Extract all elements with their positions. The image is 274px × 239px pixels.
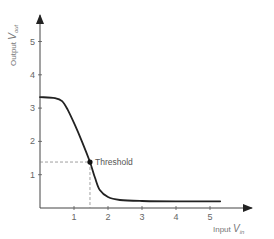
x-axis-label: Input Vin <box>213 223 245 235</box>
x-tick-label: 5 <box>207 212 212 222</box>
y-axis-label: Output Vout <box>7 24 19 66</box>
y-tick-label: 2 <box>30 136 35 146</box>
axes <box>40 15 252 208</box>
threshold-point <box>87 159 92 164</box>
transfer-curve-line <box>40 97 220 201</box>
transfer-curve-chart: 1234512345 Threshold Input VinOutput Vou… <box>0 0 274 239</box>
y-tick-label: 5 <box>30 37 35 47</box>
y-tick-label: 1 <box>30 170 35 180</box>
y-tick-label: 4 <box>30 70 35 80</box>
axis-labels: Input VinOutput Vout <box>7 24 245 235</box>
x-tick-label: 1 <box>71 212 76 222</box>
axis-ticks: 1234512345 <box>30 37 213 223</box>
x-tick-label: 2 <box>105 212 110 222</box>
chart-canvas: 1234512345 Threshold Input VinOutput Vou… <box>0 0 274 239</box>
threshold-guides <box>40 162 90 208</box>
threshold-label: Threshold <box>95 157 133 167</box>
y-tick-label: 3 <box>30 103 35 113</box>
x-tick-label: 4 <box>173 212 178 222</box>
annotations: Threshold <box>87 157 133 167</box>
x-tick-label: 3 <box>139 212 144 222</box>
